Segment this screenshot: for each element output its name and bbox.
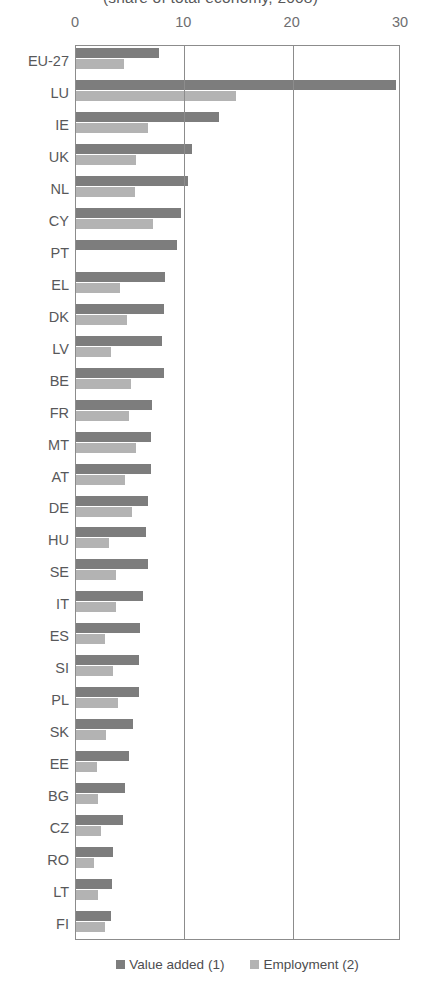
chart-legend: Value added (1)Employment (2) xyxy=(75,957,400,972)
bar-row xyxy=(76,430,399,462)
bar-employment xyxy=(76,858,94,868)
bar-row xyxy=(76,238,399,270)
bar-row xyxy=(76,494,399,526)
bar-row xyxy=(76,206,399,238)
legend-label: Value added (1) xyxy=(129,957,224,972)
y-tick-label: RO xyxy=(47,852,69,868)
bar-row xyxy=(76,142,399,174)
y-tick-label: ES xyxy=(50,628,69,644)
legend-swatch-icon xyxy=(116,960,125,969)
bar-employment xyxy=(76,794,98,804)
bar-employment xyxy=(76,762,97,772)
bar-employment xyxy=(76,475,125,485)
bar-employment xyxy=(76,283,120,293)
plot-area xyxy=(75,45,400,940)
bar-employment xyxy=(76,570,116,580)
bar-employment xyxy=(76,379,131,389)
y-tick-label: CZ xyxy=(50,820,69,836)
y-tick-label: LT xyxy=(53,884,69,900)
y-tick-label: SI xyxy=(55,660,69,676)
bar-employment xyxy=(76,730,106,740)
bar-row xyxy=(76,813,399,845)
bar-value-added xyxy=(76,879,112,889)
bar-employment xyxy=(76,602,116,612)
bar-employment xyxy=(76,219,153,229)
chart-title: (share of total economy, 2008) xyxy=(0,0,421,7)
bar-employment xyxy=(76,826,101,836)
bar-value-added xyxy=(76,80,396,90)
y-tick-label: FR xyxy=(50,405,69,421)
gridline xyxy=(184,46,185,939)
bar-value-added xyxy=(76,336,162,346)
bar-value-added xyxy=(76,400,152,410)
legend-swatch-icon xyxy=(250,960,259,969)
y-tick-label: FI xyxy=(56,916,69,932)
y-tick-label: HU xyxy=(48,532,69,548)
bar-value-added xyxy=(76,687,139,697)
bar-employment xyxy=(76,347,111,357)
bar-value-added xyxy=(76,655,139,665)
x-axis-tick-labels: 0102030 xyxy=(0,14,421,36)
y-tick-label: MT xyxy=(48,437,69,453)
bar-row xyxy=(76,685,399,717)
y-tick-label: EL xyxy=(51,277,69,293)
bar-row xyxy=(76,653,399,685)
bar-employment xyxy=(76,443,136,453)
bar-value-added xyxy=(76,591,143,601)
bar-row xyxy=(76,366,399,398)
bar-value-added xyxy=(76,432,151,442)
bar-employment xyxy=(76,890,98,900)
y-tick-label: BG xyxy=(48,788,69,804)
x-tick-label: 10 xyxy=(175,14,191,30)
y-tick-label: PT xyxy=(50,245,69,261)
bar-employment xyxy=(76,538,109,548)
bar-employment xyxy=(76,666,113,676)
y-tick-label: EE xyxy=(50,756,69,772)
y-tick-label: PL xyxy=(51,692,69,708)
y-tick-label: LV xyxy=(52,341,69,357)
bar-value-added xyxy=(76,272,165,282)
bar-employment xyxy=(76,123,148,133)
bar-employment xyxy=(76,634,105,644)
bar-row xyxy=(76,525,399,557)
y-tick-label: DK xyxy=(49,309,69,325)
bar-employment xyxy=(76,155,136,165)
bar-value-added xyxy=(76,240,177,250)
y-tick-label: EU-27 xyxy=(28,53,69,69)
bar-row xyxy=(76,589,399,621)
bar-row xyxy=(76,334,399,366)
y-tick-label: AT xyxy=(52,469,69,485)
bar-value-added xyxy=(76,112,219,122)
bar-employment xyxy=(76,59,124,69)
y-tick-label: NL xyxy=(50,181,69,197)
bar-employment xyxy=(76,411,129,421)
bar-row xyxy=(76,462,399,494)
bar-employment xyxy=(76,922,105,932)
bar-row xyxy=(76,174,399,206)
legend-label: Employment (2) xyxy=(263,957,358,972)
y-tick-label: BE xyxy=(50,373,69,389)
bar-value-added xyxy=(76,48,159,58)
bar-row xyxy=(76,749,399,781)
bar-value-added xyxy=(76,527,146,537)
y-tick-label: SK xyxy=(50,724,69,740)
gridline xyxy=(293,46,294,939)
bar-row xyxy=(76,270,399,302)
legend-item: Value added (1) xyxy=(116,957,224,972)
bar-value-added xyxy=(76,751,129,761)
bar-value-added xyxy=(76,815,123,825)
legend-item: Employment (2) xyxy=(250,957,358,972)
x-tick-label: 0 xyxy=(71,14,79,30)
bar-value-added xyxy=(76,368,164,378)
bar-employment xyxy=(76,698,118,708)
bar-row xyxy=(76,877,399,909)
y-tick-label: SE xyxy=(50,564,69,580)
bar-value-added xyxy=(76,176,188,186)
bar-row xyxy=(76,398,399,430)
chart-figure: (share of total economy, 2008) 0102030 E… xyxy=(0,0,421,1007)
bar-value-added xyxy=(76,559,148,569)
y-tick-label: UK xyxy=(49,149,69,165)
bar-row xyxy=(76,909,399,940)
y-axis-category-labels: EU-27LUIEUKNLCYPTELDKLVBEFRMTATDEHUSEITE… xyxy=(0,45,69,940)
bar-row xyxy=(76,621,399,653)
